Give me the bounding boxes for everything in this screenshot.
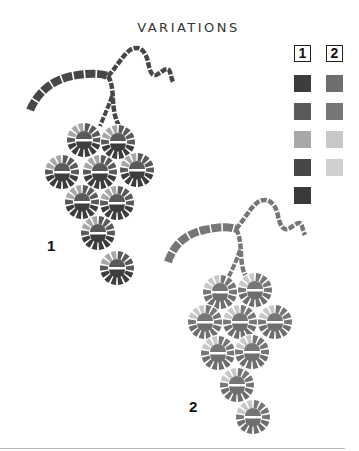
grape-berry [234,334,270,370]
grape-cluster-1 [44,122,155,286]
grape-berry [66,122,102,158]
grape-illustration [0,0,359,451]
grape-berry [44,154,80,190]
grape-berry [200,335,236,371]
grape-berry [219,367,255,403]
grape-berry [119,152,155,188]
grape-berry [257,304,293,340]
grape-berry [237,272,273,308]
grape-berry [64,184,100,220]
divider [0,448,345,449]
grape-berry [99,250,135,286]
grape-berry [99,185,135,221]
cluster-label-2: 2 [189,398,197,415]
cluster-label-1: 1 [47,237,55,254]
grape-berry [235,399,271,435]
grape-berry [187,304,223,340]
vine-2 [168,200,305,280]
grape-cluster-2 [187,272,293,435]
vine-1 [30,48,173,128]
grape-berry [80,215,116,251]
grape-berry [82,154,118,190]
